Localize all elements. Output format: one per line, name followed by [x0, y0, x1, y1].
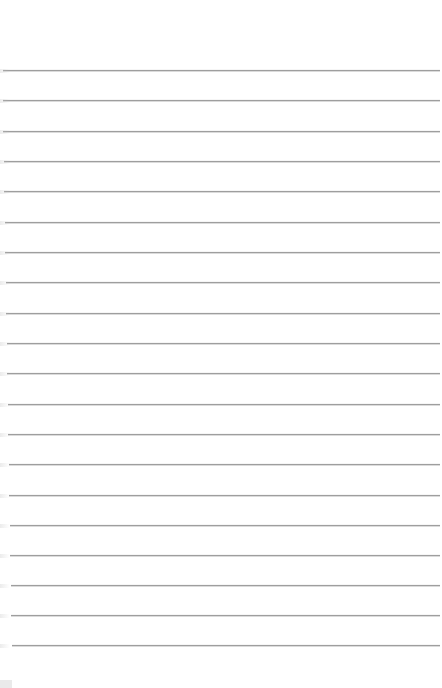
margin-smudge: [0, 281, 10, 285]
ruled-line: [6, 282, 440, 283]
margin-smudge: [0, 644, 10, 648]
ruled-line: [3, 131, 440, 132]
margin-smudge: [0, 372, 10, 376]
ruled-line: [9, 464, 440, 465]
ruled-line: [3, 100, 440, 101]
ruled-line: [7, 343, 440, 344]
ruled-line: [4, 161, 440, 162]
ruled-line: [7, 373, 440, 374]
ruled-line: [9, 495, 440, 496]
margin-smudge: [0, 190, 10, 194]
ruled-line: [8, 434, 440, 435]
ruled-line: [4, 191, 440, 192]
ruled-line: [11, 615, 440, 616]
margin-smudge: [0, 99, 10, 103]
ruled-line: [5, 252, 440, 253]
ruled-line: [12, 645, 440, 646]
margin-smudge: [0, 494, 10, 498]
ruled-line: [10, 555, 440, 556]
corner-smudge: [0, 680, 12, 688]
margin-smudge: [0, 584, 10, 588]
ruled-line: [8, 404, 440, 405]
ruled-line: [11, 585, 440, 586]
margin-smudge: [0, 554, 10, 558]
margin-smudge: [0, 403, 10, 407]
margin-smudge: [0, 130, 10, 134]
ruled-line: [6, 313, 440, 314]
margin-smudge: [0, 524, 10, 528]
margin-smudge: [0, 251, 10, 255]
margin-smudge: [0, 312, 10, 316]
margin-smudge: [0, 614, 10, 618]
lined-paper-page: [0, 0, 442, 688]
ruled-line: [5, 222, 440, 223]
margin-smudge: [0, 69, 10, 73]
margin-smudge: [0, 221, 10, 225]
margin-smudge: [0, 160, 10, 164]
ruled-line: [3, 70, 440, 71]
margin-smudge: [0, 342, 10, 346]
margin-smudge: [0, 463, 10, 467]
ruled-line: [10, 525, 440, 526]
margin-smudge: [0, 433, 10, 437]
